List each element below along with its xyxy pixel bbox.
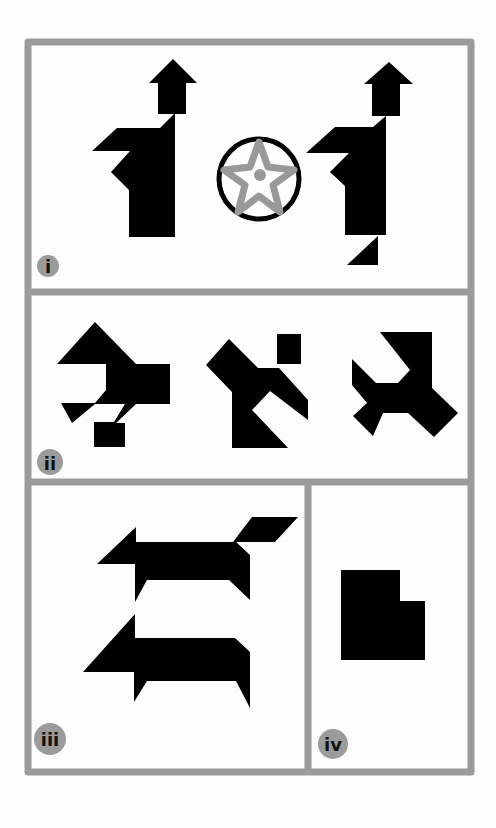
panel-ii: ii bbox=[37, 322, 458, 475]
tangram-figure-i-left bbox=[92, 59, 197, 237]
panel-label-iii: iii bbox=[41, 729, 60, 750]
tangram-block bbox=[341, 570, 425, 660]
panel-iii: iii bbox=[34, 517, 298, 755]
tangram-figure-ii-3 bbox=[352, 332, 458, 437]
tangram-animal-bottom bbox=[83, 614, 250, 708]
tangram-figure-ii-2 bbox=[206, 334, 308, 448]
tangram-animal-top bbox=[97, 517, 298, 602]
star-medallion bbox=[219, 139, 299, 219]
panel-i: i bbox=[37, 59, 413, 277]
panel-label-iv: iv bbox=[324, 734, 342, 755]
tangram-figure-i-right bbox=[306, 62, 413, 265]
tangram-figure-ii-1 bbox=[57, 322, 170, 447]
tangram-sheet: i ii iii iv bbox=[0, 0, 496, 828]
panel-label-ii: ii bbox=[44, 453, 56, 474]
panel-label-i: i bbox=[45, 256, 51, 277]
panel-iv: iv bbox=[318, 570, 425, 759]
